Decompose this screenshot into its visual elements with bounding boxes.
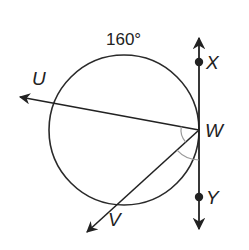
label-u: U (32, 68, 46, 89)
point-y (195, 193, 203, 201)
point-x (195, 58, 203, 66)
ray-wv (87, 130, 199, 232)
circle-geometry-diagram: 160° U V W X Y (0, 0, 249, 250)
circle (49, 55, 199, 205)
label-w: W (205, 120, 225, 141)
label-y: Y (206, 187, 220, 208)
label-x: X (205, 52, 220, 73)
label-v: V (108, 209, 123, 230)
ray-wu (20, 97, 199, 130)
angle-mark-uwv (181, 127, 186, 142)
arc-measure-label: 160° (106, 30, 141, 49)
